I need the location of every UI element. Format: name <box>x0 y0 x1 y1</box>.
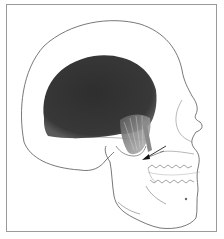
mental-foramen <box>185 198 187 200</box>
upper-teeth <box>148 165 192 168</box>
skull-illustration <box>0 0 224 239</box>
lower-teeth <box>150 180 194 183</box>
pointer-arrow <box>142 146 166 160</box>
